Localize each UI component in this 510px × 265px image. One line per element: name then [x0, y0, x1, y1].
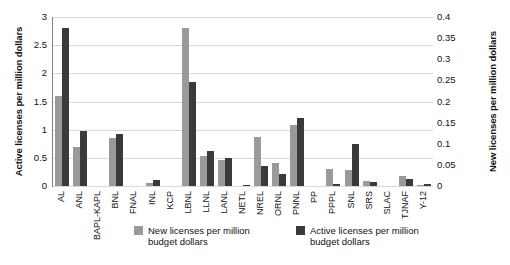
bar-new-licenses	[272, 163, 279, 186]
x-axis-tick: BNL	[106, 189, 124, 249]
bar-group	[270, 17, 288, 186]
bar-active-licenses	[207, 151, 214, 186]
x-axis-tick-label: BAPL-KAPL	[93, 191, 102, 240]
bar-active-licenses	[116, 134, 123, 186]
x-axis-tick-label: LLNL	[201, 191, 210, 213]
bar-active-licenses	[80, 131, 87, 186]
bar-new-licenses	[182, 28, 189, 186]
bar-active-licenses	[243, 185, 250, 186]
legend-label: Active licenses per million budget dolla…	[310, 225, 432, 247]
legend-item: New licenses per million budget dollars	[134, 225, 270, 247]
bar-new-licenses	[363, 181, 370, 186]
bar-new-licenses	[73, 147, 80, 186]
y-axis-right-tick-label: 0.3	[437, 54, 450, 64]
bar-group	[324, 17, 342, 186]
x-axis-tick-label: FNAL	[129, 191, 138, 214]
bar-group	[397, 17, 415, 186]
bar-new-licenses	[417, 185, 424, 186]
bar-active-licenses	[189, 82, 196, 186]
x-axis-tick-label: NETL	[237, 191, 246, 214]
x-axis-tick-label: SRS	[364, 191, 373, 210]
bar-active-licenses	[352, 144, 359, 186]
bar-group	[379, 17, 397, 186]
y-axis-right-tick-label: 0.05	[437, 160, 456, 170]
bar-group	[180, 17, 198, 186]
bar-active-licenses	[333, 184, 340, 186]
bar-active-licenses	[62, 28, 69, 186]
legend-label: New licenses per million budget dollars	[148, 225, 270, 247]
bar-group	[125, 17, 143, 186]
bar-new-licenses	[254, 137, 261, 186]
bar-group	[415, 17, 433, 186]
bar-group	[162, 17, 180, 186]
legend-item: Active licenses per million budget dolla…	[296, 225, 432, 247]
chart-legend: New licenses per million budget dollarsA…	[134, 225, 432, 247]
bar-active-licenses	[297, 118, 304, 186]
bar-group	[234, 17, 252, 186]
x-axis-tick-label: LBNL	[183, 191, 192, 214]
x-axis-tick-label: SLAC	[382, 191, 391, 215]
y-axis-left-tick-label: 0	[42, 181, 47, 191]
bar-new-licenses	[326, 169, 333, 186]
x-axis-tick: AL	[52, 189, 70, 249]
x-axis-tick-label: KCP	[165, 191, 174, 210]
x-axis-tick-label: Y-12	[418, 191, 427, 209]
bar-active-licenses	[261, 166, 268, 186]
x-axis-tick-label: AL	[57, 191, 66, 202]
bar-group	[343, 17, 361, 186]
legend-swatch	[296, 226, 305, 235]
bar-group	[53, 17, 71, 186]
bar-new-licenses	[218, 160, 225, 186]
bar-group	[107, 17, 125, 186]
bar-active-licenses	[424, 184, 431, 186]
bar-group	[198, 17, 216, 186]
bar-new-licenses	[109, 138, 116, 186]
x-axis-tick: ANL	[70, 189, 88, 249]
x-axis-tick: BAPL-KAPL	[88, 189, 106, 249]
y-axis-left-tick-label: 1	[42, 125, 47, 135]
bar-new-licenses	[146, 183, 153, 186]
y-axis-right-tick-label: 0	[437, 181, 442, 191]
x-axis-tick-label: BNL	[111, 191, 120, 209]
y-axis-right-ticks: 00.050.10.150.20.250.30.350.4	[434, 0, 464, 195]
bar-new-licenses	[345, 170, 352, 186]
bar-active-licenses	[406, 179, 413, 186]
y-axis-left-tick-label: 2.5	[34, 40, 47, 50]
bar-active-licenses	[153, 180, 160, 186]
bar-active-licenses	[225, 158, 232, 186]
bar-group	[252, 17, 270, 186]
bar-new-licenses	[200, 156, 207, 186]
bar-group	[288, 17, 306, 186]
y-axis-left-title: Active licenses per million dollars	[13, 22, 24, 182]
x-axis-tick-label: PNNL	[292, 191, 301, 215]
x-axis-tick-label: TJNAF	[400, 191, 409, 219]
bar-new-licenses	[290, 125, 297, 186]
bar-active-licenses	[370, 182, 377, 187]
y-axis-left-tick-label: 3	[42, 12, 47, 22]
y-axis-left-ticks: 00.511.522.53	[24, 0, 50, 195]
y-axis-right-tick-label: 0.4	[437, 12, 450, 22]
y-axis-right-title: New licenses per million dollars	[487, 22, 498, 182]
bar-group	[89, 17, 107, 186]
y-axis-right-tick-label: 0.35	[437, 33, 456, 43]
bar-group	[361, 17, 379, 186]
bar-group	[216, 17, 234, 186]
x-axis-tick-label: INL	[147, 191, 156, 205]
x-axis-tick-label: NREL	[256, 191, 265, 215]
x-axis-tick-label: SNL	[346, 191, 355, 209]
y-axis-left-tick-label: 2	[42, 68, 47, 78]
bar-new-licenses	[55, 96, 62, 186]
gridline	[53, 186, 433, 187]
x-axis-tick-label: ORNL	[274, 191, 283, 216]
y-axis-left-tick-label: 0.5	[34, 153, 47, 163]
x-axis-tick-label: ANL	[75, 191, 84, 209]
bar-chart: Active licenses per million dollars New …	[0, 0, 510, 265]
bar-group	[306, 17, 324, 186]
legend-swatch	[134, 226, 143, 235]
bar-active-licenses	[279, 174, 286, 186]
plot-area	[52, 17, 433, 187]
bar-new-licenses	[399, 176, 406, 186]
y-axis-right-tick-label: 0.1	[437, 139, 450, 149]
x-axis-tick-label: PPPL	[328, 191, 337, 214]
bar-group	[71, 17, 89, 186]
